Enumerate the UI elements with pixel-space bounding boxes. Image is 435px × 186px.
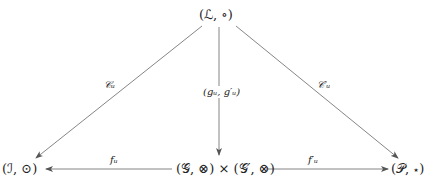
node-center: (𝒢, ⊗) × (𝒢′, ⊗) <box>176 162 275 175</box>
label-top-to-center: (gᵤ, g′ᵤ) <box>203 86 240 98</box>
label-center-to-right: f′ᵤ <box>308 155 318 165</box>
label-top-to-left: 𝒞ᵤ <box>104 80 115 90</box>
arrow-top-to-left <box>36 26 202 158</box>
node-right: (𝒫, ⋆) <box>391 162 424 175</box>
arrow-top-to-right <box>236 26 398 158</box>
node-left: (ℐ, ⊙) <box>2 162 37 175</box>
node-top: (ℒ, ∘) <box>199 8 233 21</box>
label-center-to-left: fᵤ <box>110 155 118 165</box>
label-top-to-right: 𝒞′ᵤ <box>317 80 330 90</box>
